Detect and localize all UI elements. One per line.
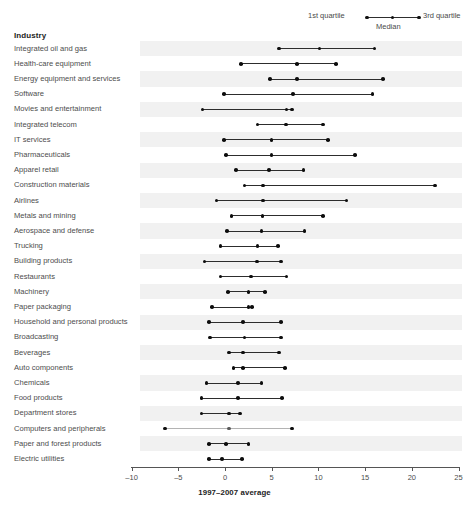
row-background-band (140, 239, 462, 254)
third-quartile-point (326, 138, 330, 142)
median-point (295, 62, 299, 66)
quartile-range-line (209, 443, 248, 444)
chart-row: Department stores (0, 406, 469, 421)
row-label-broadcasting: Broadcasting (14, 332, 58, 342)
third-quartile-point (247, 442, 251, 446)
row-background-band (140, 345, 462, 360)
x-axis-tick (412, 467, 413, 471)
row-label-health-care-equipment: Health-care equipment (14, 59, 91, 69)
median-point (220, 457, 224, 461)
third-quartile-point (279, 336, 283, 340)
row-label-it-services: IT services (14, 135, 51, 145)
legend-third-quartile-dot (417, 16, 421, 20)
first-quartile-point (225, 229, 229, 233)
row-label-integrated-oil-and-gas: Integrated oil and gas (14, 44, 87, 54)
chart-row: Pharmaceuticals (0, 147, 469, 162)
median-point (255, 260, 259, 264)
x-axis-tick (132, 467, 133, 471)
range-dot-plot-chart: 1st quartile 3rd quartile Median Industr… (0, 0, 469, 509)
row-label-restaurants: Restaurants (14, 272, 55, 282)
median-point (236, 381, 240, 385)
quartile-range-line (245, 185, 436, 186)
first-quartile-point (239, 62, 243, 66)
median-point (295, 77, 299, 81)
third-quartile-point (250, 305, 254, 309)
quartile-range-line (202, 398, 282, 399)
first-quartile-point (207, 442, 211, 446)
quartile-range-line (204, 261, 281, 262)
chart-row: Apparel retail (0, 163, 469, 178)
median-point (291, 92, 295, 96)
quartile-range-line (220, 246, 278, 247)
x-axis-tick-label: 25 (454, 473, 462, 482)
legend-median-dot (391, 16, 395, 20)
x-axis-title: 1997–2007 average (0, 488, 469, 497)
chart-row: Construction materials (0, 178, 469, 193)
chart-row: Auto components (0, 360, 469, 375)
quartile-range-line (227, 231, 305, 232)
row-label-movies-and-entertainment: Movies and entertainment (14, 104, 101, 114)
first-quartile-point (226, 290, 230, 294)
row-label-machinery: Machinery (14, 287, 49, 297)
chart-row: Building products (0, 254, 469, 269)
x-axis-tick-label: –10 (125, 473, 138, 482)
first-quartile-point (268, 77, 272, 81)
row-label-construction-materials: Construction materials (14, 180, 90, 190)
chart-row: Beverages (0, 345, 469, 360)
chart-row: Integrated telecom (0, 117, 469, 132)
x-axis-tick (318, 467, 319, 471)
quartile-range-line (229, 352, 279, 353)
median-point (227, 412, 231, 416)
chart-row: Integrated oil and gas (0, 41, 469, 56)
row-label-chemicals: Chemicals (14, 378, 49, 388)
quartile-range-line (226, 155, 355, 156)
chart-row: Software (0, 87, 469, 102)
row-label-apparel-retail: Apparel retail (14, 165, 59, 175)
chart-row: Metals and mining (0, 208, 469, 223)
industry-column-header: Industry (14, 31, 46, 40)
row-label-building-products: Building products (14, 256, 72, 266)
third-quartile-point (283, 366, 287, 370)
row-label-metals-and-mining: Metals and mining (14, 211, 76, 221)
third-quartile-point (353, 153, 357, 157)
x-axis-tick-label: 10 (314, 473, 322, 482)
row-label-aerospace-and-defense: Aerospace and defense (14, 226, 94, 236)
median-point (241, 320, 245, 324)
row-background-band (140, 330, 462, 345)
row-background-band (140, 269, 462, 284)
third-quartile-point (240, 457, 244, 461)
third-quartile-point (279, 260, 283, 264)
first-quartile-point (234, 168, 238, 172)
third-quartile-point (321, 214, 325, 218)
chart-row: Food products (0, 391, 469, 406)
quartile-range-line (241, 63, 336, 64)
third-quartile-point (433, 184, 437, 188)
first-quartile-point (207, 320, 211, 324)
third-quartile-point (263, 290, 267, 294)
quartile-range-line (209, 459, 242, 460)
median-point (241, 351, 245, 355)
median-point (284, 123, 288, 127)
x-axis-line (131, 467, 459, 468)
quartile-range-line (220, 276, 286, 277)
third-quartile-point (260, 381, 264, 385)
third-quartile-point (238, 412, 242, 416)
median-point (260, 229, 264, 233)
median-point (224, 442, 228, 446)
third-quartile-point (334, 62, 338, 66)
row-background-band (140, 299, 462, 314)
x-axis-tick (272, 467, 273, 471)
first-quartile-point (232, 366, 236, 370)
row-background-band (140, 375, 462, 390)
row-label-household-and-personal-products: Household and personal products (14, 317, 128, 327)
chart-row: Paper and forest products (0, 436, 469, 451)
row-background-band (140, 254, 462, 269)
median-point (236, 396, 240, 400)
quartile-range-line (224, 94, 373, 95)
chart-legend: 1st quartile 3rd quartile Median (308, 10, 468, 36)
third-quartile-point (381, 77, 385, 81)
first-quartile-point (210, 305, 214, 309)
third-quartile-point (280, 396, 284, 400)
first-quartile-point (207, 457, 211, 461)
legend-third-quartile-label: 3rd quartile (423, 11, 461, 20)
